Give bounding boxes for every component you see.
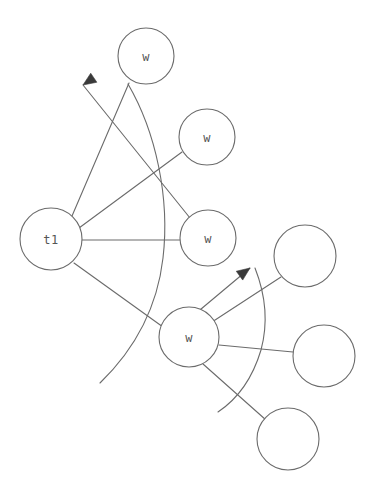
node-e3[interactable] [257,408,319,470]
node-t1[interactable]: t1 [20,208,82,270]
node-w2[interactable]: w [179,109,235,165]
node-label-w1: w [142,50,150,64]
node-circle-e2[interactable] [293,325,355,387]
node-e2[interactable] [293,325,355,387]
node-label-w4: w [185,331,193,345]
node-w4[interactable]: w [159,307,219,367]
node-e1[interactable] [274,225,336,287]
node-circle-e3[interactable] [257,408,319,470]
node-w3[interactable]: w [180,210,236,266]
node-label-w3: w [204,232,212,246]
node-circle-e1[interactable] [274,225,336,287]
node-label-t1: t1 [43,233,58,247]
diagram-canvas: t1wwww [0,0,376,491]
node-w1[interactable]: w [118,28,174,84]
node-label-w2: w [203,131,211,145]
